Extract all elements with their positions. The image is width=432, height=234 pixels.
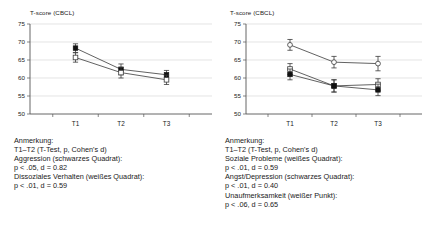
caption-line: p < .06, d = 0.65 [225, 200, 354, 209]
caption-line: p < .01, d = 0.59 [14, 181, 144, 190]
figure-two-panel-line-charts: T-score (CBCL) 505560657075T1T2T3 Anmerk… [0, 0, 432, 234]
data-point [287, 39, 292, 50]
y-tick-label: 60 [234, 74, 241, 81]
caption-line: Angst/Depression (schwarzes Quadrat): [225, 172, 354, 181]
caption-line: T1–T2 (T-Test, p, Cohen's d) [225, 145, 354, 154]
y-tick-label: 70 [18, 38, 25, 45]
x-tick-label: T2 [330, 120, 338, 127]
y-tick-label: 75 [18, 20, 25, 27]
panel-right: T-score (CBCL) 505560657075T1T2T3 Anmerk… [216, 0, 432, 234]
y-tick-label: 75 [234, 20, 241, 27]
caption-line: p < .05, d = 0.82 [14, 163, 144, 172]
caption-line: Soziale Probleme (weißes Quadrat): [225, 154, 354, 163]
y-axis-title: T-score (CBCL) [30, 9, 74, 16]
data-point [331, 80, 336, 92]
y-tick-label: 65 [234, 56, 241, 63]
y-tick-label: 65 [18, 56, 25, 63]
y-tick-label: 70 [234, 38, 241, 45]
line-chart-svg-left: 505560657075T1T2T3 [0, 18, 216, 130]
caption-line: Dissoziales Verhalten (weißes Quadrat): [14, 172, 144, 181]
data-point [375, 56, 380, 70]
plot-area-left: 505560657075T1T2T3 [0, 18, 216, 130]
panel-left: T-score (CBCL) 505560657075T1T2T3 Anmerk… [0, 0, 216, 234]
y-tick-label: 55 [18, 92, 25, 99]
x-tick-label: T3 [163, 120, 171, 127]
x-tick-label: T2 [117, 120, 125, 127]
caption-left: Anmerkung:T1–T2 (T-Test, p, Cohen's d)Ag… [14, 136, 144, 191]
y-axis-title: T-score (CBCL) [230, 9, 274, 16]
plot-area-right: 505560657075T1T2T3 [216, 18, 432, 130]
caption-line: T1–T2 (T-Test, p, Cohen's d) [14, 145, 144, 154]
y-tick-label: 50 [18, 110, 25, 117]
x-tick-label: T3 [374, 120, 382, 127]
data-point [331, 56, 336, 68]
caption-right: Anmerkung:T1–T2 (T-Test, p, Cohen's d)So… [225, 136, 354, 209]
caption-line: Aggression (schwarzes Quadrat): [14, 154, 144, 163]
x-tick-label: T1 [72, 120, 80, 127]
y-tick-label: 60 [18, 74, 25, 81]
y-tick-label: 55 [234, 92, 241, 99]
caption-line: Anmerkung: [14, 136, 144, 145]
data-point [73, 44, 78, 53]
caption-line: p < .01, d = 0.59 [225, 163, 354, 172]
data-point [73, 53, 78, 62]
caption-line: Anmerkung: [225, 136, 354, 145]
y-tick-label: 50 [234, 110, 241, 117]
x-tick-label: T1 [286, 120, 294, 127]
caption-line: Unaufmerksamkeit (weißer Punkt): [225, 191, 354, 200]
caption-line: p < .01, d = 0.40 [225, 181, 354, 190]
line-chart-svg-right: 505560657075T1T2T3 [216, 18, 432, 130]
